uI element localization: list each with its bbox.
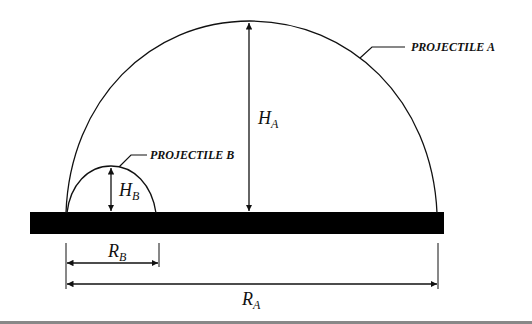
range-a-label: RA: [241, 289, 261, 312]
projectile-diagram: HA HB PROJECTILE A PROJECTILE B RB RA: [0, 0, 532, 324]
range-b-label: RB: [107, 241, 127, 264]
projectile-a-label: PROJECTILE A: [411, 40, 495, 54]
height-b-label: HB: [118, 180, 140, 203]
leader-b: [119, 155, 147, 167]
height-a-label: HA: [257, 108, 279, 131]
leader-a: [360, 47, 405, 58]
projectile-b-label: PROJECTILE B: [150, 148, 234, 162]
ground-bar: [30, 212, 444, 234]
